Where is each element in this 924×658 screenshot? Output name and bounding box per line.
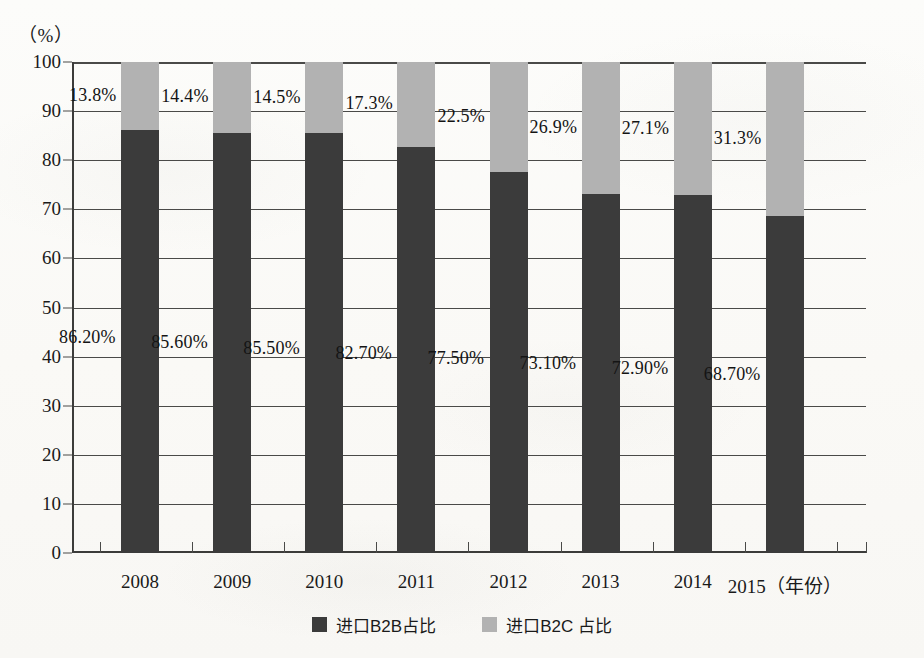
legend-swatch-b2b (312, 617, 327, 632)
data-label-b2c: 27.1% (622, 118, 670, 139)
x-tick-mark (468, 542, 469, 553)
y-tick-mark (63, 553, 72, 554)
bar-segment-b2c[interactable] (766, 62, 804, 216)
y-tick-label: 10 (42, 493, 61, 515)
legend-item-b2c[interactable]: 进口B2C 占比 (482, 612, 612, 637)
bar-segment-b2b[interactable] (766, 216, 804, 553)
x-tick-label: 2008 (121, 571, 159, 593)
x-tick-label: 2015（年份） (728, 571, 842, 598)
y-tick-label: 100 (33, 51, 62, 73)
gridline (72, 62, 866, 64)
bar-column[interactable] (766, 62, 804, 553)
data-label-b2c: 14.5% (253, 87, 301, 108)
data-label-b2b: 82.70% (335, 343, 392, 364)
x-tick-mark (745, 542, 746, 553)
data-label-b2c: 17.3% (345, 93, 393, 114)
gridline (72, 406, 866, 407)
x-tick-label: 2012 (490, 571, 528, 593)
plot-area: 0102030405060708090100 13.8%86.20%14.4%8… (72, 62, 866, 553)
y-tick-label: 50 (42, 297, 61, 319)
bar-segment-b2c[interactable] (305, 62, 343, 133)
stacked-bar-chart: （%） 0102030405060708090100 13.8%86.20%14… (0, 0, 924, 658)
x-tick-mark (284, 542, 285, 553)
y-tick-label: 40 (42, 346, 61, 368)
y-tick-label: 60 (42, 247, 61, 269)
x-tick-label: 2009 (213, 571, 251, 593)
x-tick-mark (376, 542, 377, 553)
gridline (72, 258, 866, 259)
bar-segment-b2c[interactable] (121, 62, 159, 130)
data-label-b2b: 77.50% (428, 348, 485, 369)
bar-segment-b2c[interactable] (397, 62, 435, 147)
y-tick-mark (63, 307, 72, 308)
bar-column[interactable] (397, 62, 435, 553)
legend-swatch-b2c (482, 617, 497, 632)
gridline (72, 160, 866, 161)
x-tick-label: 2013 (582, 571, 620, 593)
gridline (72, 455, 866, 456)
x-tick-mark (837, 542, 838, 553)
bar-column[interactable] (121, 62, 159, 553)
data-label-b2c: 31.3% (714, 128, 762, 149)
x-tick-label: 2014 (674, 571, 712, 593)
y-tick-mark (63, 454, 72, 455)
data-label-b2b: 72.90% (612, 358, 669, 379)
y-tick-label: 80 (42, 149, 61, 171)
x-tick-mark (100, 542, 101, 553)
legend-label: 进口B2C 占比 (506, 612, 612, 637)
y-tick-label: 30 (42, 395, 61, 417)
y-tick-mark (63, 405, 72, 406)
data-label-b2b: 73.10% (520, 353, 577, 374)
x-tick-mark (192, 542, 193, 553)
chart-legend: 进口B2B占比进口B2C 占比 (0, 612, 924, 637)
y-tick-mark (63, 258, 72, 259)
y-tick-label: 70 (42, 198, 61, 220)
y-tick-mark (63, 160, 72, 161)
y-tick-label: 0 (52, 542, 62, 564)
bar-segment-b2c[interactable] (490, 62, 528, 172)
data-label-b2c: 14.4% (161, 86, 209, 107)
bar-column[interactable] (213, 62, 251, 553)
data-label-b2b: 85.50% (243, 338, 300, 359)
y-axis-line (72, 62, 74, 553)
x-tick-mark (561, 542, 562, 553)
x-tick-label: 2010 (305, 571, 343, 593)
data-label-b2c: 22.5% (438, 106, 486, 127)
y-tick-label: 20 (42, 444, 61, 466)
bar-column[interactable] (582, 62, 620, 553)
bar-segment-b2c[interactable] (674, 62, 712, 195)
y-tick-mark (63, 209, 72, 210)
y-tick-label: 90 (42, 100, 61, 122)
legend-label: 进口B2B占比 (336, 612, 436, 637)
y-tick-mark (63, 62, 72, 63)
data-label-b2b: 85.60% (151, 332, 208, 353)
gridline (72, 308, 866, 309)
data-label-b2c: 26.9% (530, 117, 578, 138)
bar-column[interactable] (674, 62, 712, 553)
bar-segment-b2c[interactable] (582, 62, 620, 194)
data-label-b2b: 86.20% (59, 327, 116, 348)
x-tick-mark (653, 542, 654, 553)
y-tick-mark (63, 503, 72, 504)
x-tick-label: 2011 (398, 571, 435, 593)
data-label-b2c: 13.8% (69, 85, 117, 106)
data-label-b2b: 68.70% (704, 364, 761, 385)
x-tick-mark (866, 542, 867, 553)
y-tick-mark (63, 356, 72, 357)
bar-column[interactable] (490, 62, 528, 553)
gridline (72, 504, 866, 505)
gridline (72, 209, 866, 210)
bar-column[interactable] (305, 62, 343, 553)
bar-segment-b2c[interactable] (213, 62, 251, 133)
legend-item-b2b[interactable]: 进口B2B占比 (312, 612, 436, 637)
y-tick-mark (63, 111, 72, 112)
y-axis-unit-label: （%） (18, 20, 73, 47)
